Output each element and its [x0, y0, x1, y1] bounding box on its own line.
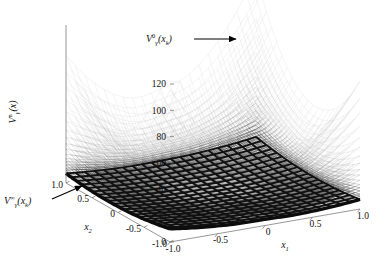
- x1-label-sub: 1: [286, 245, 289, 252]
- x1tick-label-0: -1.0: [165, 244, 180, 254]
- x1tick-label-1: -0.5: [213, 235, 228, 245]
- vtick-label-20: 20: [157, 211, 167, 221]
- vertical-axis-label: Vnγ(x): [6, 100, 20, 124]
- vaxis-tail: (x): [7, 100, 19, 112]
- plot-svg: 120100806040200 1.00.50-0.5-1.0 -1.0-0.5…: [0, 0, 380, 271]
- x2tick-label-1: 0.5: [77, 194, 89, 204]
- vtick-label-60: 60: [157, 158, 167, 168]
- vtick-label-80: 80: [157, 132, 167, 142]
- figure-3d-surface-plot: 120100806040200 1.00.50-0.5-1.0 -1.0-0.5…: [0, 0, 380, 271]
- vtick-label-120: 120: [152, 79, 167, 89]
- annotation-initial-label: V0γ(xk): [146, 32, 173, 46]
- x1tick-label-2: 0: [266, 227, 271, 237]
- ann0-sup: 0: [152, 32, 155, 39]
- x2tick-label-0: 1.0: [51, 180, 63, 190]
- anninf-tailend: ): [27, 195, 32, 207]
- x1tick-label-3: 0.5: [310, 219, 322, 229]
- svg-text:Vnγ(x): Vnγ(x): [6, 100, 20, 124]
- x2tick-label-3: -0.5: [126, 224, 141, 234]
- x2tick-label-2: 0: [110, 209, 115, 219]
- x1tick-label-4: 1.0: [357, 211, 369, 221]
- annotation-converged-label: V∞γ(xk): [4, 194, 32, 208]
- vtick-label-40: 40: [157, 185, 167, 195]
- ann0-tailend: ): [168, 33, 173, 45]
- vtick-label-100: 100: [152, 106, 167, 116]
- anninf-sup: ∞: [10, 194, 15, 201]
